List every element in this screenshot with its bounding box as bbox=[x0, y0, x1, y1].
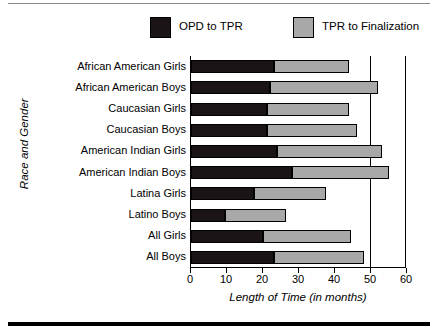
x-tick-label: 10 bbox=[220, 274, 232, 285]
legend-label-opd-to-tpr: OPD to TPR bbox=[179, 21, 243, 33]
y-tick-label: All Girls bbox=[6, 230, 186, 241]
bar-segment-tpr-to-finalization bbox=[292, 166, 389, 179]
legend-item-tpr-to-finalization: TPR to Finalization bbox=[293, 14, 419, 40]
bar-segment-tpr-to-finalization bbox=[225, 209, 286, 222]
legend-swatch-icon-tpr-to-finalization bbox=[293, 17, 314, 38]
x-tick-label: 40 bbox=[328, 274, 340, 285]
x-tick-label: 0 bbox=[187, 274, 193, 285]
bar-segment-tpr-to-finalization bbox=[270, 81, 378, 94]
y-tick-label: Latino Boys bbox=[6, 209, 186, 220]
bar-segment-opd-to-tpr bbox=[191, 60, 274, 73]
bar-segment-tpr-to-finalization bbox=[267, 124, 357, 137]
bottom-divider-rule bbox=[8, 322, 430, 326]
legend-label-tpr-to-finalization: TPR to Finalization bbox=[322, 21, 419, 33]
y-tick-label: Caucasian Boys bbox=[6, 124, 186, 135]
x-tick-label: 30 bbox=[292, 274, 304, 285]
bar-segment-tpr-to-finalization bbox=[274, 60, 350, 73]
x-tick-label: 50 bbox=[364, 274, 376, 285]
bar-segment-opd-to-tpr bbox=[191, 166, 292, 179]
chart-legend: OPD to TPR TPR to Finalization bbox=[150, 14, 430, 40]
legend-item-opd-to-tpr: OPD to TPR bbox=[150, 14, 243, 40]
bar-segment-tpr-to-finalization bbox=[277, 145, 381, 158]
bar-segment-opd-to-tpr bbox=[191, 124, 267, 137]
bar-segment-opd-to-tpr bbox=[191, 187, 254, 200]
bar-segment-tpr-to-finalization bbox=[274, 251, 364, 264]
x-tick-label: 60 bbox=[400, 274, 412, 285]
y-tick-label: African American Girls bbox=[6, 61, 186, 72]
bar-segment-tpr-to-finalization bbox=[263, 230, 351, 243]
chart-figure: OPD to TPR TPR to Finalization African A… bbox=[0, 0, 438, 334]
bar-series-container bbox=[191, 56, 405, 268]
bar-segment-opd-to-tpr bbox=[191, 81, 270, 94]
x-axis-title: Length of Time (in months) bbox=[190, 292, 406, 304]
bar-segment-tpr-to-finalization bbox=[254, 187, 326, 200]
y-tick-label: African American Boys bbox=[6, 82, 186, 93]
y-tick-label: Caucasian Girls bbox=[6, 103, 186, 114]
plot-area bbox=[190, 56, 406, 268]
bar-segment-opd-to-tpr bbox=[191, 145, 277, 158]
y-axis-title: Race and Gender bbox=[19, 84, 31, 204]
bar-segment-opd-to-tpr bbox=[191, 209, 225, 222]
top-divider-rule bbox=[8, 3, 430, 4]
y-tick-label: Latina Girls bbox=[6, 188, 186, 199]
x-axis-tick-labels: 0102030405060 bbox=[190, 274, 406, 288]
y-tick-label: American Indian Girls bbox=[6, 145, 186, 156]
x-tick-label: 20 bbox=[256, 274, 268, 285]
bar-segment-tpr-to-finalization bbox=[267, 103, 350, 116]
y-tick-label: American Indian Boys bbox=[6, 167, 186, 178]
y-axis-category-labels: African American Girls African American … bbox=[4, 56, 186, 268]
y-tick-label: All Boys bbox=[6, 251, 186, 262]
legend-swatch-icon-opd-to-tpr bbox=[150, 17, 171, 38]
bar-segment-opd-to-tpr bbox=[191, 230, 263, 243]
bar-segment-opd-to-tpr bbox=[191, 103, 267, 116]
bar-segment-opd-to-tpr bbox=[191, 251, 274, 264]
